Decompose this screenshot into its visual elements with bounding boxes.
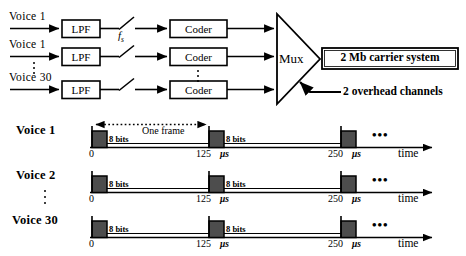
slot-label-voice-30-t0: 8 bits bbox=[109, 225, 129, 234]
input-label-voice-2: Voice 1 bbox=[9, 39, 46, 51]
diagram-vector-layer bbox=[0, 0, 466, 256]
tick-voice-2-250: 250 bbox=[328, 194, 343, 204]
unit-voice-30-250: μs bbox=[352, 240, 361, 250]
one-frame-label: One frame bbox=[142, 126, 184, 136]
timeline-label-voice-2: Voice 2 bbox=[16, 169, 55, 182]
unit-voice-30-125: μs bbox=[220, 240, 229, 250]
repeat-dots-voice-1: ••• bbox=[372, 128, 389, 141]
signal-path-row-1 bbox=[10, 17, 274, 38]
lpf-box-label-1: LPF bbox=[62, 24, 100, 35]
slot-label-voice-2-t125: 8 bits bbox=[226, 180, 246, 189]
slot-label-voice-1-t125: 8 bits bbox=[226, 135, 246, 144]
tick-voice-30-0: 0 bbox=[89, 239, 94, 249]
coder-box-label-1: Coder bbox=[170, 24, 227, 35]
tick-voice-1-0: 0 bbox=[89, 149, 94, 159]
coder-vertical-ellipsis-icon bbox=[195, 70, 201, 82]
slot-label-voice-1-t0: 8 bits bbox=[109, 135, 129, 144]
repeat-dots-voice-2: ••• bbox=[372, 173, 389, 186]
tick-voice-2-0: 0 bbox=[89, 194, 94, 204]
timeline-label-voice-1: Voice 1 bbox=[16, 124, 55, 137]
carrier-system-label: 2 Mb carrier system bbox=[322, 52, 458, 64]
lpf-box-label-3: LPF bbox=[62, 85, 100, 96]
tick-voice-30-250: 250 bbox=[328, 239, 343, 249]
coder-box-label-2: Coder bbox=[170, 52, 227, 63]
repeat-dots-voice-30: ••• bbox=[372, 218, 389, 231]
unit-voice-1-125: μs bbox=[220, 150, 229, 160]
tick-voice-1-125: 125 bbox=[196, 149, 211, 159]
timeline-vertical-ellipsis-icon bbox=[42, 190, 48, 204]
unit-voice-2-250: μs bbox=[352, 195, 361, 205]
unit-voice-1-250: μs bbox=[352, 150, 361, 160]
tick-voice-1-250: 250 bbox=[328, 149, 343, 159]
tick-voice-30-125: 125 bbox=[196, 239, 211, 249]
sampling-frequency-subscript: s bbox=[121, 35, 124, 44]
overhead-arrow bbox=[300, 82, 341, 92]
signal-path-row-2 bbox=[10, 46, 274, 66]
timeline-label-voice-30: Voice 30 bbox=[12, 214, 58, 227]
sampling-frequency-label: fs bbox=[118, 30, 124, 44]
slot-label-voice-30-t125: 8 bits bbox=[226, 225, 246, 234]
overhead-channels-label: 2 overhead channels bbox=[343, 86, 443, 98]
lpf-box-label-2: LPF bbox=[62, 52, 100, 63]
coder-box-label-3: Coder bbox=[170, 85, 227, 96]
input-label-voice-1: Voice 1 bbox=[9, 11, 46, 23]
input-vertical-ellipsis-icon bbox=[31, 62, 37, 74]
slot-label-voice-2-t0: 8 bits bbox=[109, 180, 129, 189]
mux-label: Mux bbox=[279, 52, 304, 65]
unit-voice-2-125: μs bbox=[220, 195, 229, 205]
tick-voice-2-125: 125 bbox=[196, 194, 211, 204]
axis-label-voice-2: time bbox=[398, 193, 418, 205]
axis-label-voice-1: time bbox=[398, 148, 418, 160]
axis-label-voice-30: time bbox=[398, 238, 418, 250]
figure-canvas: Voice 1 Voice 1 Voice 30 LPF LPF LPF fs … bbox=[0, 0, 466, 256]
